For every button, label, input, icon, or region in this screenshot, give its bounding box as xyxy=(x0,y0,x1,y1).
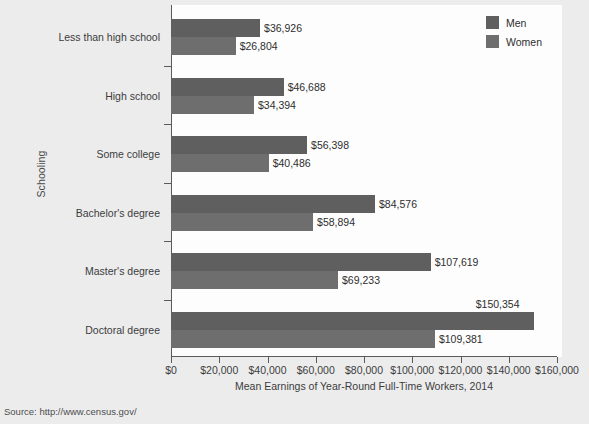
x-axis-tick-label: $140,000 xyxy=(487,364,531,376)
y-axis-category-label: Master's degree xyxy=(46,265,166,277)
bar-value-label: $69,233 xyxy=(342,274,380,286)
x-axis-tick-label: $60,000 xyxy=(297,364,335,376)
y-axis-line xyxy=(171,5,172,357)
y-axis-category-label: Some college xyxy=(46,148,166,160)
y-axis-tick xyxy=(164,66,172,67)
bar-value-label: $58,894 xyxy=(317,216,355,228)
bar-value-label: $107,619 xyxy=(435,256,479,268)
bar-women-1 xyxy=(171,96,254,114)
x-axis-tick xyxy=(461,357,462,363)
bar-men-3 xyxy=(171,195,375,213)
x-axis-tick-label: $40,000 xyxy=(249,364,287,376)
y-axis-category-label: Doctoral degree xyxy=(46,324,166,336)
bar-value-label: $46,688 xyxy=(288,81,326,93)
bar-women-3 xyxy=(171,213,313,231)
bar-value-label: $26,804 xyxy=(240,40,278,52)
x-axis-title: Mean Earnings of Year-Round Full-Time Wo… xyxy=(171,380,557,392)
x-axis-tick xyxy=(509,357,510,363)
bar-value-label: $109,381 xyxy=(439,333,483,345)
y-axis-tick xyxy=(164,183,172,184)
x-axis-tick-label: $80,000 xyxy=(345,364,383,376)
legend-item-women: Women xyxy=(486,35,566,48)
x-axis-tick-label: $100,000 xyxy=(390,364,434,376)
bar-value-label: $40,486 xyxy=(273,157,311,169)
bar-men-0 xyxy=(171,19,260,37)
bar-men-1 xyxy=(171,78,284,96)
source-note: Source: http://www.census.gov/ xyxy=(4,406,137,417)
y-axis-tick xyxy=(164,124,172,125)
legend-item-men: Men xyxy=(486,16,566,29)
bar-men-2 xyxy=(171,136,307,154)
chart-figure: Schooling Less than high schoolHigh scho… xyxy=(0,0,589,424)
x-axis-tick xyxy=(268,357,269,363)
bar-men-5 xyxy=(171,312,534,330)
y-axis-tick xyxy=(164,241,172,242)
x-axis-tick-label: $160,000 xyxy=(535,364,579,376)
y-axis-category-label: High school xyxy=(46,90,166,102)
y-axis-category-labels: Less than high schoolHigh schoolSome col… xyxy=(46,0,166,357)
x-axis-tick-label: $120,000 xyxy=(439,364,483,376)
x-axis-tick xyxy=(412,357,413,363)
bar-value-label: $56,398 xyxy=(311,139,349,151)
y-axis-category-label: Less than high school xyxy=(46,31,166,43)
bar-women-4 xyxy=(171,271,338,289)
legend-swatch-icon xyxy=(486,35,499,48)
bar-women-2 xyxy=(171,154,269,172)
bar-value-label: $36,926 xyxy=(264,22,302,34)
bar-value-label: $34,394 xyxy=(258,99,296,111)
bar-value-label: $84,576 xyxy=(379,198,417,210)
bar-value-label: $150,354 xyxy=(476,298,520,310)
bar-men-4 xyxy=(171,253,431,271)
bar-women-5 xyxy=(171,330,435,348)
x-axis-tick-label: $20,000 xyxy=(200,364,238,376)
legend-swatch-icon xyxy=(486,16,499,29)
x-axis-tick xyxy=(557,357,558,363)
x-axis-tick xyxy=(171,357,172,363)
chart-legend: MenWomen xyxy=(486,16,566,54)
x-axis-tick xyxy=(316,357,317,363)
legend-label: Men xyxy=(506,17,526,29)
x-axis-tick xyxy=(219,357,220,363)
bar-women-0 xyxy=(171,37,236,55)
y-axis-category-label: Bachelor's degree xyxy=(46,207,166,219)
x-axis-tick xyxy=(364,357,365,363)
y-axis-tick xyxy=(164,300,172,301)
x-axis-tick-label: $0 xyxy=(165,364,177,376)
legend-label: Women xyxy=(506,36,542,48)
